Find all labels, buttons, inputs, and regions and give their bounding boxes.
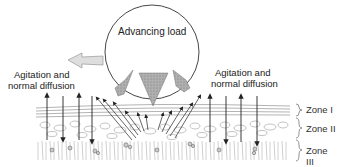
load-arrow-left xyxy=(115,70,133,96)
load-arrow-right xyxy=(173,70,190,92)
right-diffusion-label-line2: normal diffusion xyxy=(211,78,278,89)
left-diffusion-arrows xyxy=(47,95,92,142)
right-diffusion-label-line1: Agitation and xyxy=(215,67,270,78)
left-fluid-exit-arrows xyxy=(97,98,148,140)
zone-braces xyxy=(296,104,302,161)
zone-2-label: Zone II xyxy=(306,123,336,134)
right-diffusion-arrows xyxy=(210,96,257,144)
load-arrow-center xyxy=(139,73,168,106)
left-flow-arrow xyxy=(68,53,103,68)
right-fluid-exit-arrows xyxy=(158,96,200,138)
tissue-layers xyxy=(36,104,290,160)
advancing-load-label: Advancing load xyxy=(118,26,186,37)
left-diffusion-label-line1: Agitation and xyxy=(14,69,69,80)
zone-1-label: Zone I xyxy=(306,104,333,115)
left-diffusion-label-line2: normal diffusion xyxy=(8,80,75,91)
zone-3-label: Zone III xyxy=(306,145,337,167)
